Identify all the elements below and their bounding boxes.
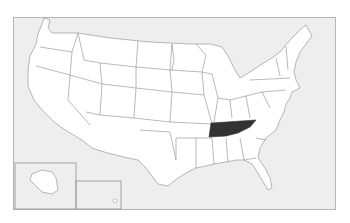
us-mainland [28,18,312,190]
hawaii [113,199,117,203]
alaska [30,170,58,194]
hawaii-inset-frame [76,181,121,209]
us-map [0,0,350,223]
